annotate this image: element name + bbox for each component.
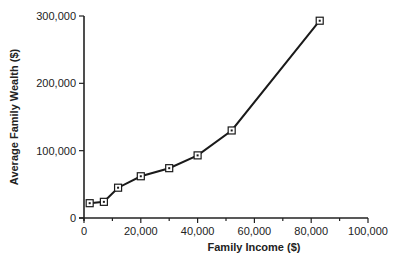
y-axis-title: Average Family Wealth ($): [8, 49, 20, 186]
x-axis-title: Family Income ($): [208, 241, 301, 253]
data-series: [86, 17, 323, 206]
x-tick-label: 40,000: [181, 225, 215, 237]
x-tick-label: 20,000: [124, 225, 158, 237]
tick-marks: [79, 16, 368, 223]
x-tick-label: 60,000: [238, 225, 272, 237]
marker-center-dot: [231, 129, 233, 131]
marker-center-dot: [117, 187, 119, 189]
series-line: [90, 21, 320, 204]
marker-center-dot: [168, 167, 170, 169]
marker-center-dot: [140, 175, 142, 177]
x-tick-label: 0: [81, 225, 87, 237]
marker-center-dot: [103, 201, 105, 203]
y-tick-label: 100,000: [36, 145, 76, 157]
x-tick-label: 100,000: [348, 225, 388, 237]
x-tick-label: 80,000: [294, 225, 328, 237]
axes: [79, 16, 368, 221]
line-chart: Average Family Wealth ($) Family Income …: [0, 0, 394, 260]
y-tick-label: 200,000: [36, 77, 76, 89]
y-tick-label: 0: [70, 212, 76, 224]
marker-center-dot: [89, 202, 91, 204]
y-tick-label: 300,000: [36, 10, 76, 22]
marker-center-dot: [197, 154, 199, 156]
y-axis-title-group: Average Family Wealth ($): [8, 49, 20, 186]
marker-center-dot: [319, 20, 321, 22]
